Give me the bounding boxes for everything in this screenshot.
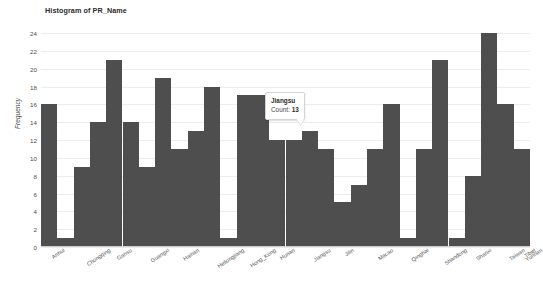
histogram-bar[interactable] [171, 149, 187, 247]
y-tick-label: 6 [34, 190, 37, 197]
tooltip: Jiangsu Count: 13 [265, 92, 305, 120]
histogram-bar[interactable] [286, 140, 302, 247]
tooltip-count-row: Count: 13 [271, 105, 299, 114]
histogram-bar[interactable] [432, 60, 448, 247]
histogram-bar[interactable] [106, 60, 122, 247]
tooltip-title: Jiangsu [271, 96, 299, 105]
x-tick-label: Jiangsu [312, 247, 331, 263]
histogram-bar[interactable] [416, 149, 432, 247]
x-tick-label: Guangxi [150, 247, 171, 264]
histogram-bar[interactable] [497, 104, 513, 247]
y-tick-label: 22 [30, 47, 37, 54]
y-tick-label: 18 [30, 83, 37, 90]
x-tick-label: Chongqing [85, 247, 111, 267]
histogram-bar[interactable] [383, 104, 399, 247]
x-tick-label: Hainan [182, 247, 200, 262]
y-tick-label: 10 [30, 154, 37, 161]
histogram-bar[interactable] [204, 87, 220, 248]
y-tick-label: 14 [30, 119, 37, 126]
bar-series [41, 33, 530, 247]
y-tick-label: 4 [34, 208, 37, 215]
y-tick-label: 2 [34, 226, 37, 233]
chart-title: Histogram of PR_Name [45, 6, 127, 15]
x-tick-label: Jilin [343, 247, 354, 257]
histogram-bar[interactable] [302, 131, 318, 247]
histogram-bar[interactable] [465, 176, 481, 247]
histogram-bar[interactable] [514, 149, 530, 247]
x-tick-label: Shanxi [475, 247, 493, 262]
histogram-bar[interactable] [334, 202, 350, 247]
x-tick-label: Shandong [444, 247, 469, 266]
x-tick-label: Heilongjiang [216, 247, 245, 269]
histogram-bar[interactable] [269, 140, 285, 247]
y-tick-label: 16 [30, 101, 37, 108]
tooltip-count-value: 13 [292, 106, 299, 113]
x-tick-label: Anhui [51, 247, 66, 260]
tooltip-pointer-icon [296, 118, 304, 125]
histogram-bar[interactable] [367, 149, 383, 247]
y-tick-label: 20 [30, 65, 37, 72]
tooltip-count-label: Count: [271, 106, 290, 113]
histogram-bar[interactable] [90, 122, 106, 247]
histogram-bar[interactable] [123, 122, 139, 247]
x-tick-label: Hong_Kong [249, 247, 277, 269]
histogram-bar[interactable] [188, 131, 204, 247]
y-axis-label: Frequency [14, 84, 21, 144]
x-axis-labels: AnhuiChongqingGansuGuangxiHainanHeilongj… [41, 247, 530, 297]
y-tick-label: 24 [30, 30, 37, 37]
histogram-bar[interactable] [74, 167, 90, 247]
histogram-bar[interactable] [237, 95, 253, 247]
y-tick-label: 8 [34, 172, 37, 179]
histogram-bar[interactable] [155, 78, 171, 247]
histogram-bar[interactable] [481, 33, 497, 247]
histogram-bar[interactable] [139, 167, 155, 247]
plot-area [41, 33, 530, 247]
y-tick-label: 12 [30, 137, 37, 144]
histogram-bar[interactable] [351, 185, 367, 247]
x-tick-label: Hunan [279, 247, 296, 261]
histogram-bar[interactable] [318, 149, 334, 247]
histogram-bar[interactable] [41, 104, 57, 247]
x-tick-label: Macao [377, 247, 394, 261]
y-tick-label: 0 [34, 244, 37, 251]
x-tick-label: Gansu [116, 247, 133, 261]
x-tick-label: Qinghai [410, 247, 429, 263]
